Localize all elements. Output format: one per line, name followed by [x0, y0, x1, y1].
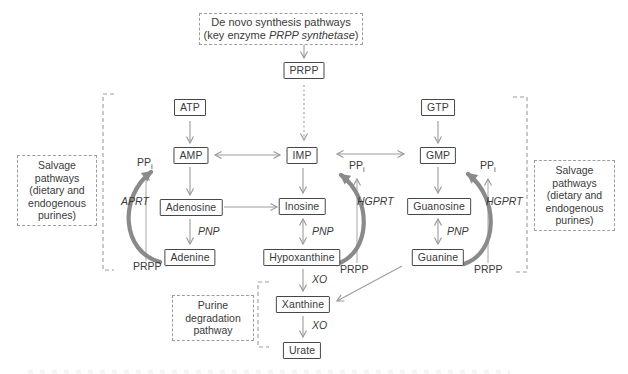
node-atp: ATP — [174, 99, 206, 116]
bracket-degradation — [258, 282, 269, 347]
label-enzyme-pnp-right: PNP — [447, 226, 469, 238]
label-enzyme-pnp-left: PNP — [198, 226, 220, 238]
curve-hypoxanthine-to-imp-hgprt — [337, 175, 364, 264]
label-ppi-left: PPi — [137, 157, 153, 171]
label-enzyme-pnp-middle: PNP — [312, 226, 334, 238]
node-prpp: PRPP — [284, 62, 325, 79]
node-gtp: GTP — [421, 99, 455, 116]
de-novo-line2-enzyme: PRPP synthetase — [269, 29, 355, 41]
node-gmp: GMP — [420, 147, 456, 164]
label-prpp-middle: PRPP — [340, 264, 369, 276]
curve-guanine-to-gmp-hgprt — [464, 174, 491, 264]
ppi-left-sub: i — [151, 162, 153, 171]
note-salvage-pathways-right: Salvage pathways (dietary and endogenous… — [534, 160, 615, 231]
label-enzyme-xo-top: XO — [312, 274, 327, 286]
label-ppi-right: PPi — [480, 160, 496, 174]
label-enzyme-hgprt-right: HGPRT — [486, 196, 523, 208]
de-novo-line2-prefix: (key enzyme — [204, 29, 269, 41]
cropped-caption-remnant — [28, 370, 510, 374]
node-guanosine: Guanosine — [407, 198, 471, 215]
ppi-left-base: PP — [137, 156, 151, 168]
de-novo-line2-suffix: ) — [355, 29, 359, 41]
label-prpp-right: PRPP — [474, 264, 503, 276]
node-urate: Urate — [283, 342, 321, 359]
note-purine-degradation: Purine degradation pathway — [172, 295, 254, 341]
de-novo-line2: (key enzyme PRPP synthetase) — [200, 29, 362, 42]
de-novo-line1: De novo synthesis pathways — [200, 16, 362, 29]
ppi-right-base: PP — [480, 159, 494, 171]
purine-metabolism-diagram: De novo synthesis pathways (key enzyme P… — [0, 0, 628, 374]
node-imp: IMP — [287, 147, 318, 164]
bracket-salvage-left — [103, 94, 114, 270]
bracket-salvage-right — [513, 97, 527, 272]
node-hypoxanthine: Hypoxanthine — [263, 249, 340, 266]
node-guanine: Guanine — [412, 249, 464, 266]
note-de-novo-synthesis: De novo synthesis pathways (key enzyme P… — [199, 13, 363, 45]
node-adenine: Adenine — [164, 249, 215, 266]
label-enzyme-aprt: APRT — [121, 196, 149, 208]
node-amp: AMP — [173, 147, 208, 164]
note-salvage-pathways-left: Salvage pathways (dietary and endogenous… — [17, 155, 97, 226]
ppi-middle-base: PP — [349, 159, 363, 171]
node-inosine: Inosine — [279, 198, 326, 215]
label-prpp-left: PRPP — [133, 261, 162, 273]
label-enzyme-xo-bottom: XO — [312, 320, 327, 332]
ppi-right-sub: i — [494, 165, 496, 174]
node-adenosine: Adenosine — [160, 199, 223, 216]
curve-adenine-to-amp-aprt — [129, 172, 160, 262]
label-enzyme-hgprt-middle: HGPRT — [357, 196, 394, 208]
ppi-middle-sub: i — [363, 165, 365, 174]
node-xanthine: Xanthine — [276, 296, 330, 313]
label-ppi-middle: PPi — [349, 160, 365, 174]
